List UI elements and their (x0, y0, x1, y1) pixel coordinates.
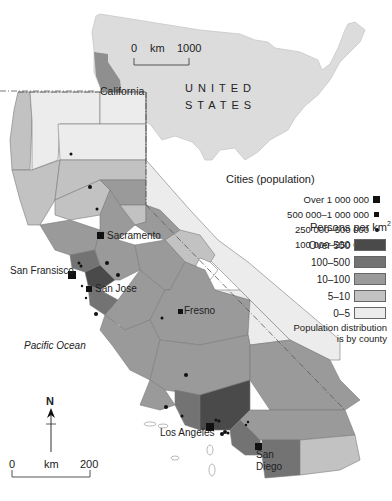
swatch-100-500 (354, 256, 386, 268)
city-label-fresno: Fresno (184, 306, 215, 316)
main-scale-end: 200 (80, 459, 98, 470)
california-counties (10, 92, 360, 478)
inset-scale-start: 0 (131, 43, 137, 54)
large-square-icon (373, 196, 380, 203)
inset-scale-unit: km (150, 43, 165, 54)
inset-scale-end: 1000 (177, 43, 201, 54)
city-label-san-diego-1: San (256, 450, 274, 460)
north-label: N (46, 396, 54, 407)
city-label-san-jose: San Jose (95, 284, 137, 294)
main-scale-bar (12, 470, 90, 477)
cities-legend-item: 500 000–1 000 000 (287, 209, 380, 220)
country-label-line2: STATES (185, 100, 256, 111)
density-legend-title: Persons per km2 (310, 220, 391, 233)
north-arrow-icon (46, 408, 56, 452)
main-scale-start: 0 (9, 459, 15, 470)
density-legend-item: 0–5 (333, 307, 386, 319)
swatch-0-5 (354, 307, 386, 319)
cities-legend-title: Cities (population) (226, 173, 315, 185)
density-legend-item: 100–500 (311, 256, 386, 268)
city-label-los-angeles: Los Angeles (160, 428, 215, 438)
swatch-over-500 (354, 239, 386, 251)
density-note: Population distribution is by county (294, 322, 387, 345)
density-legend-item: Over 500 (309, 239, 386, 251)
small-square-icon (374, 212, 379, 217)
sacramento-marker (97, 232, 104, 239)
main-scale-unit: km (44, 459, 59, 470)
california-inset-label: California (100, 86, 144, 97)
ocean-label: Pacific Ocean (24, 341, 86, 351)
fresno-marker (178, 309, 183, 314)
swatch-5-10 (354, 290, 386, 302)
city-label-san-diego-2: Diego (256, 462, 282, 472)
san-jose-marker (86, 286, 92, 292)
density-legend-item: 10–100 (317, 273, 386, 285)
swatch-10-100 (354, 273, 386, 285)
density-legend-item: 5–10 (328, 290, 386, 302)
city-label-san-francisco: San Fransisco (10, 266, 74, 276)
country-label-line1: UNITED (185, 83, 256, 94)
cities-legend-item: Over 1 000 000 (304, 194, 381, 205)
city-label-sacramento: Sacramento (107, 231, 161, 241)
